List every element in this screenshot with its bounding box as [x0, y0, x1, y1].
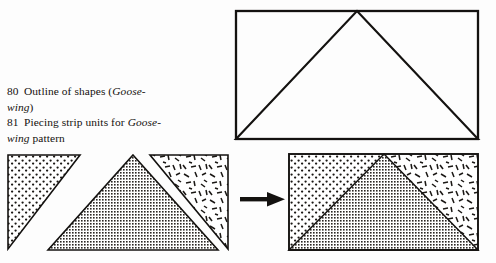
- figure-piecing-strip-units: [0, 145, 240, 263]
- caption-line-81a: 81Piecing strip units for Goose-: [7, 115, 187, 131]
- caption-80-text-post: ): [30, 101, 34, 113]
- figure-caption-block: 80Outline of shapes (Goose- wing) 81Piec…: [7, 84, 187, 146]
- caption-line-81b: wing pattern: [7, 131, 187, 147]
- caption-81-text-pre: Piecing strip units for: [24, 116, 128, 128]
- caption-line-80b: wing): [7, 100, 187, 116]
- caption-80-italic-goose: Goose-: [112, 85, 146, 97]
- caption-line-80a: 80Outline of shapes (Goose-: [7, 84, 187, 100]
- caption-80-text-pre: Outline of shapes (: [24, 85, 112, 97]
- figure-page: 80Outline of shapes (Goose- wing) 81Piec…: [0, 0, 496, 263]
- caption-number-81: 81: [7, 115, 24, 131]
- figure-outline-of-shapes: [228, 2, 490, 152]
- caption-81-italic-wing: wing: [7, 132, 30, 144]
- caption-number-80: 80: [7, 84, 24, 100]
- caption-80-italic-wing: wing: [7, 101, 30, 113]
- arrow-shaft: [240, 197, 270, 201]
- outline-rectangle: [236, 11, 478, 139]
- outline-inscribed-triangle: [236, 11, 478, 139]
- caption-81-italic-goose: Goose-: [128, 116, 162, 128]
- figure-assembled-block: [283, 145, 488, 263]
- caption-81-text-post: pattern: [30, 132, 65, 144]
